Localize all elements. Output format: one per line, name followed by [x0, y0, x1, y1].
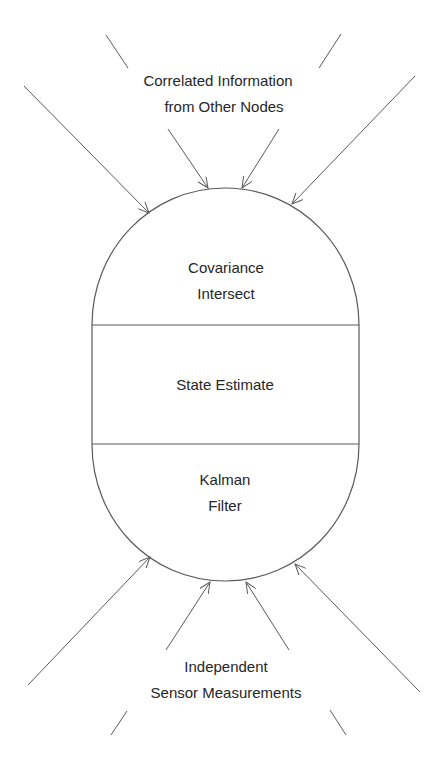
top-short-line-right: [319, 34, 341, 68]
bottom-input-label-line1: Independent: [151, 654, 302, 680]
top-input-label-line2: from Other Nodes: [155, 94, 292, 120]
section-state-estimate-line1: State Estimate: [176, 372, 274, 398]
top-input-label: Correlated Information from Other Nodes: [143, 68, 292, 120]
arrow-bottom-inner-right: [246, 582, 289, 650]
top-short-line-left: [106, 35, 128, 68]
arrow-bottom-outer-right: [295, 564, 420, 692]
bottom-short-line-left: [111, 711, 127, 735]
arrow-top-inner-right: [242, 129, 279, 188]
section-covariance-intersect-line1: Covariance: [188, 255, 264, 281]
bottom-input-label: Independent Sensor Measurements: [151, 654, 302, 706]
section-kalman-filter: Kalman Filter: [200, 467, 251, 519]
section-covariance-intersect: Covariance Intersect: [188, 255, 264, 307]
bottom-short-line-right: [330, 710, 346, 735]
top-input-label-line1: Correlated Information: [143, 68, 292, 94]
section-kalman-filter-line2: Filter: [200, 493, 251, 519]
section-kalman-filter-line1: Kalman: [200, 467, 251, 493]
section-covariance-intersect-line2: Intersect: [188, 281, 264, 307]
arrow-top-inner-left: [168, 129, 208, 188]
bottom-input-label-line2: Sensor Measurements: [151, 680, 302, 706]
arrow-top-outer-right: [292, 76, 415, 204]
arrow-top-outer-left: [24, 86, 149, 213]
section-state-estimate: State Estimate: [176, 372, 274, 398]
arrow-bottom-inner-left: [166, 582, 210, 650]
arrow-bottom-outer-left: [28, 557, 150, 685]
